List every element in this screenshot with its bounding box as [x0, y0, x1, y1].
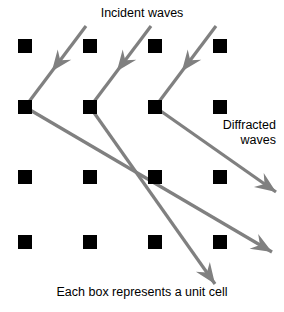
figure-caption-text: Each box represents a unit cell	[57, 285, 228, 299]
diffraction-diagram: Incident waves Diffracted waves Each box…	[0, 0, 284, 312]
unit-cell-square	[148, 170, 162, 184]
unit-cell-square	[213, 235, 227, 249]
unit-cell-square	[148, 39, 162, 53]
unit-cell-square	[18, 39, 32, 53]
unit-cell-square	[83, 170, 97, 184]
incident-ray-2-arrowhead	[117, 49, 136, 71]
diffracted-ray-3-arrowhead	[254, 173, 276, 192]
incident-ray-1-arrowhead	[52, 49, 71, 71]
unit-cell-square	[148, 235, 162, 249]
diffracted-waves-text-line2: waves	[241, 133, 276, 147]
incident-waves-text: Incident waves	[101, 6, 184, 20]
unit-cell-square	[213, 39, 227, 53]
unit-cell-square	[83, 39, 97, 53]
diagram-canvas	[0, 0, 284, 312]
unit-cell-square	[18, 100, 32, 114]
diffracted-waves-label: Diffracted waves	[120, 118, 276, 148]
diffracted-ray-1-arrowhead	[250, 234, 272, 252]
unit-cell-square	[83, 100, 97, 114]
unit-cell-square	[213, 170, 227, 184]
incident-waves-label: Incident waves	[0, 6, 284, 21]
unit-cell-square	[83, 235, 97, 249]
figure-caption: Each box represents a unit cell	[0, 285, 284, 300]
unit-cell-square	[18, 170, 32, 184]
diffracted-waves-text-line1: Diffracted	[223, 118, 276, 132]
unit-cell-square	[18, 235, 32, 249]
diffracted-ray-2-arrowhead	[196, 262, 215, 284]
unit-cell-square	[148, 100, 162, 114]
incident-ray-3-arrowhead	[182, 49, 201, 71]
unit-cell-square	[213, 100, 227, 114]
